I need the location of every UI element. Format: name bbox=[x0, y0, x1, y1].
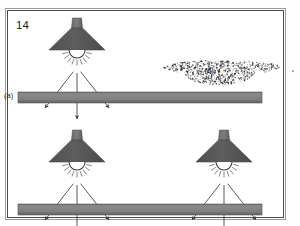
figure-canvas: 14 (a) (b) bbox=[0, 0, 300, 226]
panel-label-b: (b) bbox=[205, 67, 214, 74]
panel-label-a: (a) bbox=[4, 92, 13, 100]
figure-frame-inner bbox=[7, 10, 284, 218]
stray-print-speck bbox=[292, 70, 294, 72]
figure-number: 14 bbox=[16, 20, 29, 32]
